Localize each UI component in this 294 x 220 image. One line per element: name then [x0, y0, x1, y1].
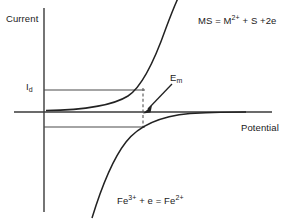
anodic-reaction-superscript-1: 2+ — [232, 14, 240, 21]
cathodic-reaction-text-2: + e = Fe — [136, 195, 175, 206]
mixed-potential-annotation: Em — [170, 73, 182, 83]
evans-diagram-figure: Current Potential Id Em MS = M2+ + S +2e… — [0, 0, 294, 220]
polarization-plot — [0, 0, 294, 220]
cathodic-reaction-superscript-2: 2+ — [175, 194, 183, 201]
cathodic-reaction-superscript-1: 3+ — [128, 194, 136, 201]
cathodic-reaction-label: Fe3+ + e = Fe2+ — [117, 196, 184, 206]
limiting-current-subscript: d — [29, 86, 33, 93]
cathodic-reaction-text-1: Fe — [117, 195, 128, 206]
anodic-reaction-text-1: MS = M — [198, 15, 232, 26]
x-axis-label: Potential — [241, 123, 279, 133]
limiting-current-annotation: Id — [26, 82, 33, 92]
mixed-potential-arrow-shaft — [148, 84, 172, 109]
y-axis-label: Current — [6, 14, 38, 24]
mixed-potential-subscript: m — [176, 77, 182, 84]
anodic-reaction-label: MS = M2+ + S +2e — [198, 16, 277, 26]
anodic-polarization-curve — [46, 0, 180, 111]
anodic-reaction-text-2: + S +2e — [240, 15, 277, 26]
